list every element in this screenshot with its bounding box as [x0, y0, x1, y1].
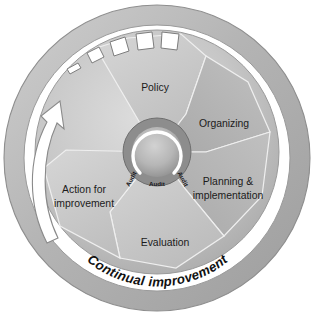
tooth-5-icon	[161, 32, 179, 50]
segment-label-evaluation: Evaluation	[141, 237, 190, 248]
segment-label-planning-line1: Planning &	[203, 176, 253, 187]
continual-improvement-diagram: Policy Organizing Planning & implementat…	[0, 0, 315, 322]
segment-label-action-line2: improvement	[54, 198, 114, 209]
hub-inner-disc	[132, 127, 182, 177]
cycle-diagram-canvas: Policy Organizing Planning & implementat…	[0, 0, 315, 322]
segment-label-planning-line2: implementation	[193, 190, 264, 201]
hub-label-audit-bottom: Audit	[149, 180, 165, 187]
segment-label-action-line1: Action for	[62, 184, 106, 195]
tooth-4-icon	[136, 32, 154, 50]
segment-label-organizing: Organizing	[199, 118, 249, 129]
segment-label-policy: Policy	[141, 82, 170, 93]
